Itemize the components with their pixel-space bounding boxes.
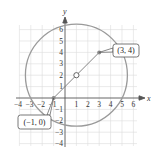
callout-3-4: (3, 4): [99, 44, 139, 57]
svg-text:4: 4: [109, 100, 113, 109]
svg-text:6: 6: [132, 100, 136, 109]
svg-text:−4: −4: [55, 139, 63, 148]
svg-text:−1: −1: [55, 105, 63, 114]
svg-text:3: 3: [97, 100, 101, 109]
svg-text:1: 1: [59, 82, 63, 91]
svg-text:1: 1: [75, 100, 79, 109]
center-marker: [74, 73, 79, 78]
svg-text:−2: −2: [37, 100, 45, 109]
svg-text:2: 2: [59, 71, 63, 80]
svg-text:3: 3: [59, 59, 63, 68]
svg-text:4: 4: [59, 48, 63, 57]
y-axis-arrow-icon: [63, 17, 67, 23]
svg-text:5: 5: [59, 37, 63, 46]
svg-text:2: 2: [86, 100, 90, 109]
svg-text:−3: −3: [55, 128, 63, 137]
x-axis-arrow-icon: [139, 96, 145, 100]
x-axis-label: x: [146, 94, 151, 103]
coordinate-plane: x y −4 −3 −2 −1 1 2 3 4 5 6 6 5 4 3 2 1 …: [0, 0, 158, 155]
callout-label-3-4: (3, 4): [117, 46, 135, 55]
svg-text:−4: −4: [14, 100, 22, 109]
callout-label-neg1-0: (−1, 0): [24, 118, 46, 127]
y-axis-label: y: [62, 7, 67, 16]
